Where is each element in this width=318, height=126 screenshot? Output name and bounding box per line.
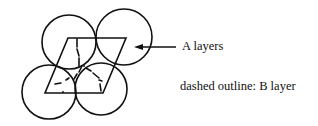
unit-cell-parallelogram: [45, 38, 126, 93]
dash-segment: [99, 80, 102, 81]
a-layers-label: A layers: [182, 40, 223, 53]
b-layer-legend-label: dashed outline: B layer: [180, 80, 296, 93]
a-layer-circles: [22, 9, 152, 119]
dash-segment: [77, 49, 79, 56]
dash-segment: [86, 68, 91, 71]
circle-top-left: [42, 15, 96, 69]
dot: [62, 91, 64, 93]
dash-segment: [93, 73, 99, 78]
arrow-icon: [134, 44, 176, 50]
circle-bottom-left: [22, 65, 76, 119]
layer-diagram-graphic: [0, 0, 318, 126]
dash-segment: [66, 78, 69, 80]
dash-segment: [100, 84, 101, 91]
dot: [83, 65, 85, 67]
dash-segment: [55, 83, 61, 84]
circle-top-right: [96, 9, 152, 65]
